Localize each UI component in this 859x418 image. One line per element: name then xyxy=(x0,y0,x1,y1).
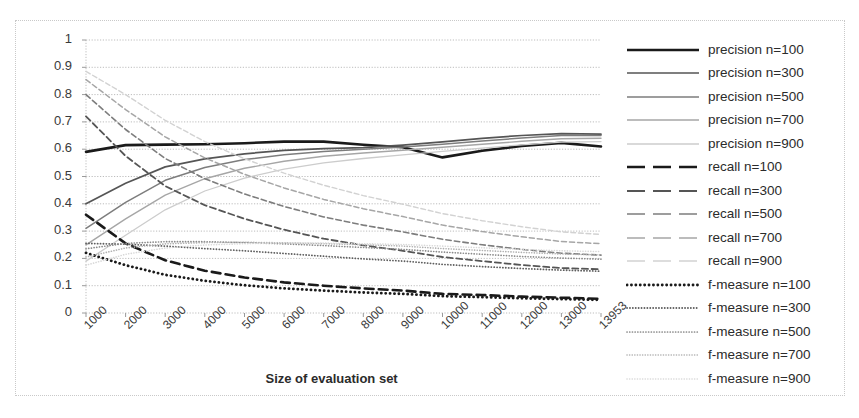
y-axis-tick-label: 0.7 xyxy=(26,113,72,128)
legend-item-label: recall n=100 xyxy=(708,160,782,174)
y-axis-tick-label: 0.6 xyxy=(26,140,72,155)
legend-item: precision n=900 xyxy=(626,132,841,156)
legend-line-swatch xyxy=(626,372,700,386)
legend-item: recall n=700 xyxy=(626,226,841,250)
legend-line-swatch xyxy=(626,160,700,174)
legend-line-swatch xyxy=(626,231,700,245)
y-axis-tick-label: 0 xyxy=(26,304,72,319)
legend-item: precision n=300 xyxy=(626,62,841,86)
y-axis-tick-label: 0.8 xyxy=(26,86,72,101)
legend-line-swatch xyxy=(626,43,700,57)
legend-item-label: recall n=500 xyxy=(708,207,782,221)
legend-item-label: f-measure n=900 xyxy=(708,372,810,386)
legend-line-swatch xyxy=(626,207,700,221)
y-axis-tick-label: 0.4 xyxy=(26,195,72,210)
legend-line-swatch xyxy=(626,66,700,80)
legend-item-label: f-measure n=300 xyxy=(708,301,810,315)
y-axis-tick-label: 0.2 xyxy=(26,249,72,264)
series-line-11 xyxy=(86,243,601,271)
chart-screenshot: 10.90.80.70.60.50.40.30.20.10 1000200030… xyxy=(0,0,859,418)
legend-line-swatch xyxy=(626,301,700,315)
y-axis-tick-label: 0.5 xyxy=(26,168,72,183)
legend-item-label: precision n=700 xyxy=(708,113,804,127)
legend-item: precision n=500 xyxy=(626,85,841,109)
legend-line-swatch xyxy=(626,348,700,362)
legend-item-label: precision n=500 xyxy=(708,90,804,104)
series-line-8 xyxy=(86,80,601,244)
legend-item: f-measure n=900 xyxy=(626,367,841,391)
y-axis-tick-label: 0.3 xyxy=(26,222,72,237)
legend-item: recall n=500 xyxy=(626,203,841,227)
legend-line-swatch xyxy=(626,90,700,104)
legend-item-label: precision n=300 xyxy=(708,66,804,80)
legend-item: recall n=100 xyxy=(626,156,841,180)
y-axis-tick-label: 1 xyxy=(26,31,72,46)
legend-line-swatch xyxy=(626,184,700,198)
x-axis-title: Size of evaluation set xyxy=(266,371,398,386)
legend-item-label: precision n=100 xyxy=(708,43,804,57)
legend-item-label: f-measure n=700 xyxy=(708,348,810,362)
legend-item: precision n=100 xyxy=(626,38,841,62)
legend-line-swatch xyxy=(626,137,700,151)
legend-item-label: f-measure n=500 xyxy=(708,325,810,339)
legend-line-swatch xyxy=(626,278,700,292)
legend-item: f-measure n=700 xyxy=(626,344,841,368)
legend-item: recall n=900 xyxy=(626,250,841,274)
series-line-14 xyxy=(86,243,601,265)
legend-line-swatch xyxy=(626,113,700,127)
legend-item-label: f-measure n=100 xyxy=(708,278,810,292)
legend-item-label: recall n=300 xyxy=(708,184,782,198)
legend-line-swatch xyxy=(626,325,700,339)
legend-item-label: recall n=700 xyxy=(708,231,782,245)
series-line-3 xyxy=(86,138,601,245)
legend-item: precision n=700 xyxy=(626,109,841,133)
series-line-9 xyxy=(86,71,601,234)
chart-legend: precision n=100precision n=300precision … xyxy=(626,38,841,391)
legend-item: f-measure n=100 xyxy=(626,273,841,297)
legend-item-label: precision n=900 xyxy=(708,137,804,151)
legend-item: recall n=300 xyxy=(626,179,841,203)
legend-line-swatch xyxy=(626,254,700,268)
legend-item-label: recall n=900 xyxy=(708,254,782,268)
legend-item: f-measure n=300 xyxy=(626,297,841,321)
series-line-6 xyxy=(86,116,601,269)
y-axis-tick-label: 0.1 xyxy=(26,277,72,292)
legend-item: f-measure n=500 xyxy=(626,320,841,344)
y-axis-tick-label: 0.9 xyxy=(26,58,72,73)
